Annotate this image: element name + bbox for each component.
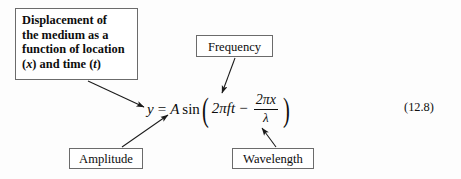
amplitude-label: Amplitude <box>79 152 133 166</box>
callout-frequency: Frequency <box>196 35 273 57</box>
displacement-line-1: Displacement of <box>22 13 107 27</box>
frequency-label: Frequency <box>208 40 261 54</box>
equation-number: (12.8) <box>404 100 434 115</box>
arrow-frequency-to-frequency-term <box>222 58 235 93</box>
equation-open-paren: ( <box>202 97 209 123</box>
displacement-paren-close: ) <box>97 57 101 71</box>
equation-equals: = <box>158 101 166 118</box>
displacement-line-3: function of location <box>22 42 125 56</box>
callout-amplitude: Amplitude <box>69 148 143 169</box>
equation-inner-expression: 2πft − 2πx λ <box>212 93 280 124</box>
arrow-wavelength-to-lambda-term <box>262 128 276 147</box>
equation-annotation-figure: Displacement of the medium as a function… <box>0 0 461 179</box>
arrow-displacement-to-y <box>88 81 144 107</box>
equation-fraction-denominator: λ <box>263 111 269 125</box>
equation-close-paren: ) <box>283 97 290 123</box>
displacement-and-time: ) and time ( <box>32 57 93 71</box>
callout-displacement: Displacement of the medium as a function… <box>15 8 138 80</box>
callout-wavelength: Wavelength <box>232 148 314 169</box>
equation-fraction: 2πx λ <box>254 93 278 124</box>
equation-minus: − <box>239 100 247 117</box>
equation-fraction-numerator: 2πx <box>254 93 278 108</box>
wave-equation: y = A sin ( 2πft − 2πx λ ) <box>147 92 292 126</box>
wavelength-label: Wavelength <box>243 152 303 166</box>
equation-lhs: y <box>147 101 154 118</box>
equation-amplitude-symbol: A <box>170 101 179 118</box>
equation-sin-function: sin <box>182 101 200 118</box>
displacement-line-4: (x) and time (t) <box>22 57 101 71</box>
equation-frequency-term: 2πft <box>212 100 235 117</box>
displacement-line-2: the medium as a <box>22 28 108 42</box>
